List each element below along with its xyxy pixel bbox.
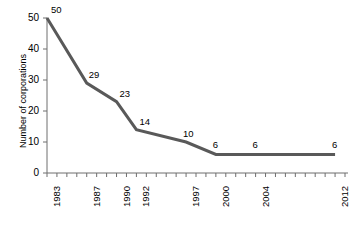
chart-container: Number of corporations 01020304050 19831…	[0, 0, 358, 227]
y-axis-tick-label: 40	[17, 43, 39, 54]
y-axis-tick-label: 30	[17, 74, 39, 85]
data-point-label: 23	[120, 88, 131, 99]
data-point-label: 10	[183, 128, 194, 139]
x-axis-tick-label: 1983	[51, 186, 62, 207]
x-axis-tick-label: 2000	[220, 186, 231, 207]
x-axis-tick-label: 2004	[260, 186, 271, 207]
x-axis-tick-label: 1997	[190, 186, 201, 207]
y-axis-tick-label: 10	[17, 136, 39, 147]
y-axis-tick-label: 20	[17, 105, 39, 116]
data-point-label: 6	[332, 139, 337, 150]
x-axis-tick-label: 1987	[91, 186, 102, 207]
data-point-label: 50	[51, 4, 62, 15]
data-point-label: 6	[213, 139, 218, 150]
x-axis-tick-label: 1990	[121, 186, 132, 207]
x-axis-tick-label: 2012	[339, 186, 350, 207]
y-axis-tick-label: 0	[17, 167, 39, 178]
data-point-label: 6	[253, 139, 258, 150]
x-axis-tick-label: 1992	[140, 186, 151, 207]
data-point-label: 29	[89, 69, 100, 80]
data-point-label: 14	[139, 116, 150, 127]
y-axis-tick-label: 50	[17, 12, 39, 23]
